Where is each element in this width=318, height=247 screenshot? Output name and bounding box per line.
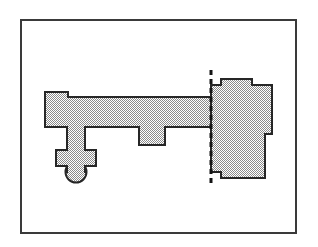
bump-seam-cover bbox=[68, 167, 85, 174]
east-block-polygon bbox=[211, 79, 272, 178]
plan-drawing bbox=[0, 0, 318, 247]
figure-root bbox=[0, 0, 318, 247]
